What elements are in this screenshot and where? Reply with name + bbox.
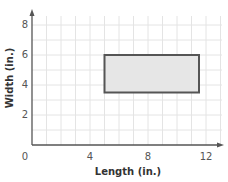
y-axis-label: Width (in.) [4,48,15,108]
x-tick-8: 8 [145,151,151,162]
x-tick-0: 0 [22,151,28,162]
x-tick-12: 12 [200,151,213,162]
y-tick-8: 8 [22,19,28,30]
chart: 0 4 8 12 2 4 6 8 Length (in.) Width (in.… [0,0,228,182]
y-tick-6: 6 [22,49,28,60]
rectangle-shape [105,55,200,93]
x-tick-4: 4 [87,151,93,162]
y-tick-2: 2 [22,109,28,120]
y-tick-4: 4 [22,79,28,90]
x-axis-label: Length (in.) [95,166,161,177]
